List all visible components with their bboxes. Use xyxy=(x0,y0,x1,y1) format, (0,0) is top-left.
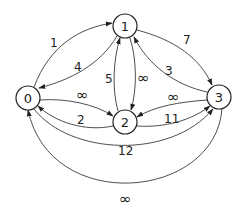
edge-label-0-2: ∞ xyxy=(76,86,89,104)
node-label-0: 0 xyxy=(24,91,32,106)
node-1: 1 xyxy=(113,14,137,38)
edge-label-3-1: 3 xyxy=(165,64,173,78)
edge-label-1-2: ∞ xyxy=(137,69,150,87)
node-label-1: 1 xyxy=(121,19,129,34)
edge-label-0-1: 1 xyxy=(50,36,58,50)
edge-label-1-3: 7 xyxy=(183,33,191,47)
edge-label-3-2: ∞ xyxy=(167,88,180,106)
node-0: 0 xyxy=(16,86,40,110)
node-3: 3 xyxy=(207,85,231,109)
edge-label-2-3: 11 xyxy=(164,112,179,126)
edge-2-to-1 xyxy=(114,38,120,111)
graph-diagram: 1 4 7 3 5 ∞ ∞ 2 ∞ 11 12 ∞ 0 1 2 3 xyxy=(0,0,243,209)
node-label-2: 2 xyxy=(121,115,129,130)
edge-label-1-0: 4 xyxy=(74,60,82,74)
edge-0-to-1 xyxy=(34,23,112,87)
edge-label-3-0: ∞ xyxy=(119,190,132,208)
edge-1-to-2 xyxy=(130,38,135,110)
edge-label-2-1: 5 xyxy=(105,72,113,86)
edge-2-to-0 xyxy=(38,106,113,128)
edge-label-2-0: 2 xyxy=(77,113,85,127)
edge-label-0-3: 12 xyxy=(118,144,133,158)
node-2: 2 xyxy=(113,110,137,134)
node-label-3: 3 xyxy=(215,90,223,105)
